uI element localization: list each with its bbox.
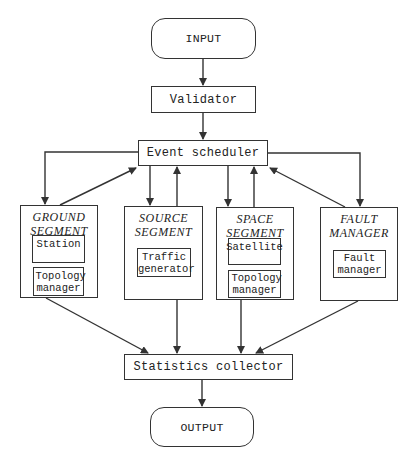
source-title-line2: SEGMENT <box>125 225 202 239</box>
fault-manager-title: FAULT MANAGER <box>321 212 397 240</box>
event-scheduler-label: Event scheduler <box>147 146 260 160</box>
statistics-collector-node: Statistics collector <box>124 354 293 380</box>
source-segment: SOURCE SEGMENT Traffic generator <box>124 206 203 300</box>
satellite-component: Satellite <box>228 238 281 265</box>
statistics-collector-label: Statistics collector <box>133 360 283 374</box>
validator-label: Validator <box>170 93 238 107</box>
validator-node: Validator <box>151 86 256 113</box>
station-component: Station <box>32 235 85 263</box>
fault-manager-segment: FAULT MANAGER Fault manager <box>320 207 398 301</box>
traffic-generator-label: Traffic generator <box>138 251 190 275</box>
fault-title-line1: FAULT <box>321 212 397 226</box>
fault-manager-component: Fault manager <box>333 250 386 278</box>
output-node: OUTPUT <box>150 407 254 447</box>
satellite-label: Satellite <box>226 241 283 253</box>
space-segment: SPACE SEGMENT Satellite Topology manager <box>216 207 294 300</box>
space-topology-manager-component: Topology manager <box>228 270 281 298</box>
ground-segment-title: GROUND SEGMENT <box>21 210 97 238</box>
ground-topology-manager-component: Topology manager <box>33 267 84 296</box>
station-label: Station <box>36 238 80 250</box>
fault-title-line2: MANAGER <box>321 226 397 240</box>
input-node: INPUT <box>151 18 256 59</box>
traffic-generator-component: Traffic generator <box>137 248 191 277</box>
source-segment-title: SOURCE SEGMENT <box>125 211 202 239</box>
space-segment-title: SPACE SEGMENT <box>217 212 293 240</box>
input-label: INPUT <box>185 32 221 45</box>
event-scheduler-node: Event scheduler <box>138 140 268 166</box>
space-title-line1: SPACE <box>217 212 293 226</box>
ground-title-line1: GROUND <box>21 210 97 224</box>
ground-segment: GROUND SEGMENT Station Topology manager <box>20 205 98 298</box>
ground-topology-label: Topology manager <box>36 270 82 294</box>
fault-manager-label: Fault manager <box>338 252 382 276</box>
space-topology-label: Topology manager <box>232 272 278 296</box>
output-label: OUTPUT <box>180 421 223 434</box>
source-title-line1: SOURCE <box>125 211 202 225</box>
